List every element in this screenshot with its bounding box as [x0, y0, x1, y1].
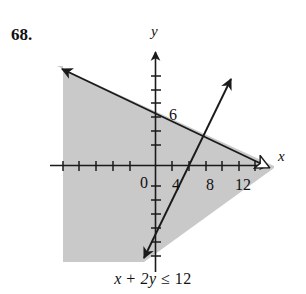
caption-term-12: 12 — [175, 270, 192, 287]
x-tick-label-8: 8 — [206, 176, 214, 193]
coordinate-graph: y x 0 4 8 12 6 — [0, 0, 306, 294]
figure-root: 68. — [0, 0, 306, 294]
caption-term-2y: 2y — [140, 270, 156, 287]
x-tick-label-0: 0 — [140, 174, 148, 191]
shaded-solution-region — [57, 65, 274, 262]
y-tick-label-6: 6 — [169, 106, 177, 123]
caption-relation-leq: ≤ — [161, 270, 170, 287]
x-tick-label-12: 12 — [235, 176, 251, 193]
x-axis-label: x — [277, 148, 285, 164]
caption-term-x: x — [114, 270, 122, 287]
x-tick-label-4: 4 — [172, 176, 180, 193]
inequality-caption: x + 2y ≤ 12 — [0, 270, 306, 288]
caption-operator-plus: + — [126, 270, 136, 287]
y-axis-label: y — [149, 23, 158, 39]
